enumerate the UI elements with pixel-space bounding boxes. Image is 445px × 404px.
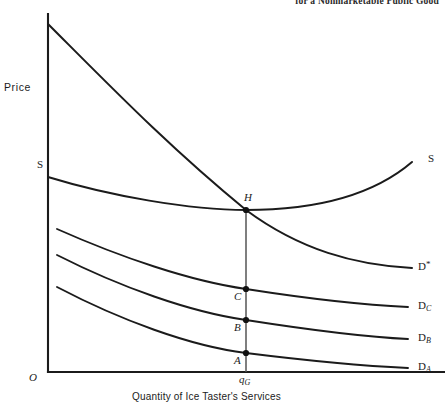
curve-label-demand-a-sub: A [426, 365, 431, 374]
curve-label-demand-a: DA [418, 360, 431, 372]
x-tick-label-base: q [239, 373, 245, 385]
point-h [243, 207, 249, 213]
curve-label-demand-c-base: D [418, 299, 426, 311]
x-axis-label: Quantity of Ice Taster's Services [132, 391, 281, 402]
curve-label-demand-aggregate-base: D [418, 260, 426, 272]
point-label-b: B [234, 321, 241, 333]
curve-label-demand-c-sub: C [426, 304, 431, 313]
curve-label-demand-b-base: D [418, 331, 426, 343]
x-tick-label-qg: qG [239, 373, 250, 385]
curve-demand-a [57, 287, 408, 368]
curve-label-demand-aggregate: D* [418, 260, 430, 272]
supply-label-right: S [428, 152, 434, 164]
curve-label-demand-a-base: D [418, 360, 426, 372]
point-c [243, 286, 249, 292]
point-label-h: H [244, 191, 252, 203]
curve-label-demand-c: DC [418, 299, 431, 311]
point-b [243, 317, 249, 323]
supply-label-left: S [37, 158, 43, 170]
curve-label-demand-b-sub: B [426, 336, 431, 345]
economics-diagram [0, 0, 445, 404]
curve-demand-aggregate [48, 24, 412, 268]
curve-demand-b [57, 255, 408, 339]
x-tick-label-sub: G [245, 378, 251, 387]
y-axis-label: Price [4, 81, 31, 93]
point-a [243, 350, 249, 356]
curve-label-demand-b: DB [418, 331, 431, 343]
origin-label: O [29, 371, 37, 383]
point-label-c: C [234, 290, 241, 302]
curve-supply [48, 162, 412, 210]
curve-demand-c [57, 229, 408, 307]
curve-label-demand-aggregate-sup: * [426, 259, 431, 269]
point-label-a: A [234, 354, 241, 366]
